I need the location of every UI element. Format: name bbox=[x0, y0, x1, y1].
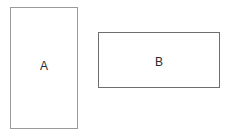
rectangle-b-label: B bbox=[155, 56, 163, 68]
rectangle-b: B bbox=[98, 32, 220, 88]
rectangle-a-label: A bbox=[40, 60, 48, 72]
rectangle-a: A bbox=[10, 7, 78, 129]
